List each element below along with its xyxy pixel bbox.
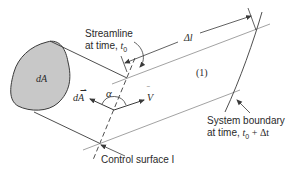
- velocity-label: V‾: [147, 92, 153, 103]
- streamline-label-line2: at time, t0: [85, 40, 127, 55]
- area-vector-label: dA⇀: [73, 92, 84, 103]
- delta-l-arrow-right: [200, 16, 251, 33]
- delta-l-label: Δl: [184, 32, 193, 43]
- vector-bar-icon: ‾: [147, 85, 150, 96]
- delta-l-tick-left: [121, 56, 127, 72]
- velocity-vector-arrow: [114, 100, 144, 110]
- system-boundary-label-line1: System boundary: [207, 115, 285, 126]
- control-surface-label: Control surface I: [101, 154, 174, 165]
- streamline-leader: [134, 42, 143, 67]
- lower-tangent-line: [34, 112, 99, 143]
- angle-label: α: [106, 88, 112, 99]
- area-vector-arrow: [90, 99, 114, 110]
- delta-l-arrow-left: [125, 42, 178, 63]
- system-boundary-leader: [237, 100, 250, 113]
- vector-bar-icon: ⇀: [80, 85, 87, 96]
- area-label: dA: [36, 73, 47, 84]
- control-surface-line: [93, 58, 135, 160]
- delta-l-tick-right: [248, 8, 256, 30]
- system-boundary-label-line2: at time, t0 + Δt: [207, 127, 269, 142]
- streamline-label-line1: Streamline: [85, 28, 133, 39]
- system-boundary-curve: [225, 12, 262, 112]
- region-label: (1): [196, 67, 208, 78]
- stream-tube-diagram: [0, 0, 287, 171]
